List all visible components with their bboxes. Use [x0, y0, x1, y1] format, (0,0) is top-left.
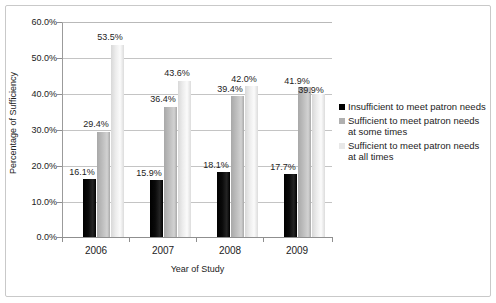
x-tick-mark-0: [62, 237, 63, 242]
x-tick-mark-3: [263, 237, 264, 242]
chart-legend: Insufficient to meet patron needs Suffic…: [339, 101, 487, 165]
bar-2006-insufficient[interactable]: [83, 179, 96, 237]
legend-label-insufficient: Insufficient to meet patron needs: [348, 101, 486, 112]
bar-label-2008-some-times: 39.4%: [204, 84, 256, 94]
bar-label-2006-all-times: 53.5%: [84, 32, 136, 42]
legend-swatch-black-icon: [339, 104, 345, 110]
bar-2007-insufficient[interactable]: [150, 180, 163, 237]
x-tick-mark-2: [196, 237, 197, 242]
legend-swatch-light-icon: [339, 143, 345, 149]
x-tick-label-2009: 2009: [262, 245, 332, 256]
bar-2006-some-times[interactable]: [97, 132, 110, 237]
legend-label-some-times: Sufficient to meet patron needs at some …: [348, 115, 487, 137]
x-axis-title: Year of Study: [62, 264, 333, 274]
plot-area: [62, 22, 332, 237]
x-tick-mark-1: [129, 237, 130, 242]
x-tick-label-2006: 2006: [61, 245, 131, 256]
legend-item-some-times[interactable]: Sufficient to meet patron needs at some …: [339, 115, 487, 137]
bar-2009-all-times[interactable]: [312, 94, 325, 237]
bar-label-2007-insufficient: 15.9%: [123, 168, 175, 178]
bar-label-2009-insufficient: 17.7%: [257, 162, 309, 172]
bar-label-2007-all-times: 43.6%: [151, 68, 203, 78]
x-tick-label-2007: 2007: [128, 245, 198, 256]
bar-label-2008-insufficient: 18.1%: [190, 160, 242, 170]
legend-item-insufficient[interactable]: Insufficient to meet patron needs: [339, 101, 487, 112]
bar-2009-insufficient[interactable]: [284, 174, 297, 238]
bar-chart-figure: 60.0% 50.0% 40.0% 30.0% 20.0% 10.0% 0.0%…: [0, 0, 496, 303]
legend-label-all-times: Sufficient to meet patron needs at all t…: [348, 140, 487, 162]
bar-label-2007-some-times: 36.4%: [137, 94, 189, 104]
y-axis-title: Percentage of Sufficiency: [8, 33, 18, 213]
gridline-50: [63, 58, 332, 59]
bar-2006-all-times[interactable]: [111, 45, 124, 237]
x-tick-mark-4: [332, 237, 333, 242]
bar-label-2006-some-times: 29.4%: [70, 119, 122, 129]
y-tick-label-60: 60.0%: [5, 17, 57, 27]
x-axis-line: [62, 237, 333, 238]
legend-item-all-times[interactable]: Sufficient to meet patron needs at all t…: [339, 140, 487, 162]
bar-2008-insufficient[interactable]: [217, 172, 230, 237]
y-tick-label-0: 0.0%: [5, 232, 57, 242]
bar-2007-all-times[interactable]: [178, 81, 191, 237]
bar-label-2006-insufficient: 16.1%: [56, 167, 108, 177]
legend-swatch-gray-icon: [339, 118, 345, 124]
bar-label-2009-all-times: 39.9%: [285, 85, 337, 95]
bar-label-2008-all-times: 42.0%: [218, 74, 270, 84]
x-tick-label-2008: 2008: [195, 245, 265, 256]
